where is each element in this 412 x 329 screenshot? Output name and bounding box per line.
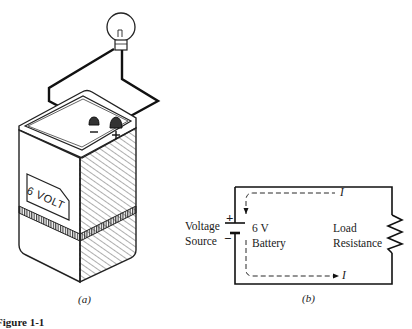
figure-caption-fragment: Figure 1-1	[0, 316, 44, 329]
light-bulb-icon	[107, 13, 135, 50]
resistor-symbol	[388, 215, 402, 253]
load-label-line2: Resistance	[333, 237, 382, 250]
battery-label-line1: 6 V	[252, 222, 269, 235]
current-label-top: I	[340, 186, 344, 199]
plus-sign: +	[226, 211, 233, 224]
voltage-source-label-line1: Voltage	[185, 220, 220, 233]
minus-sign: −	[224, 232, 231, 245]
panel-a-caption: (a)	[78, 293, 91, 306]
schematic-circuit	[225, 187, 402, 284]
current-label-bottom: I	[342, 269, 346, 282]
current-arrow-down-icon	[244, 208, 249, 214]
battery-label-line2: Battery	[252, 237, 286, 250]
load-label-line1: Load	[333, 222, 357, 235]
current-arrow-right-icon	[333, 274, 339, 279]
voltage-source-label-line2: Source	[185, 235, 217, 248]
panel-b-caption: (b)	[302, 292, 315, 305]
